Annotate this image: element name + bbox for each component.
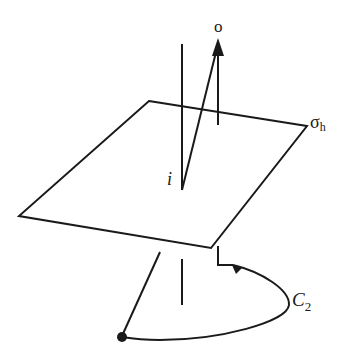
arrowhead-o: [212, 38, 224, 56]
sigma-symbol: σ: [310, 112, 320, 132]
rotated-vector: [122, 252, 160, 336]
rotated-point-dot: [117, 332, 127, 342]
c-subscript: 2: [305, 299, 312, 314]
c2-rotation-curve: [122, 265, 289, 340]
label-o: o: [214, 18, 223, 35]
label-inversion: i: [167, 170, 172, 188]
label-sigma-h: σh: [310, 113, 326, 133]
mirror-plane: [19, 101, 307, 248]
c-symbol: C: [292, 289, 305, 310]
label-c2: C2: [292, 290, 311, 313]
sigma-subscript: h: [320, 120, 326, 134]
projection-path: [218, 246, 233, 265]
